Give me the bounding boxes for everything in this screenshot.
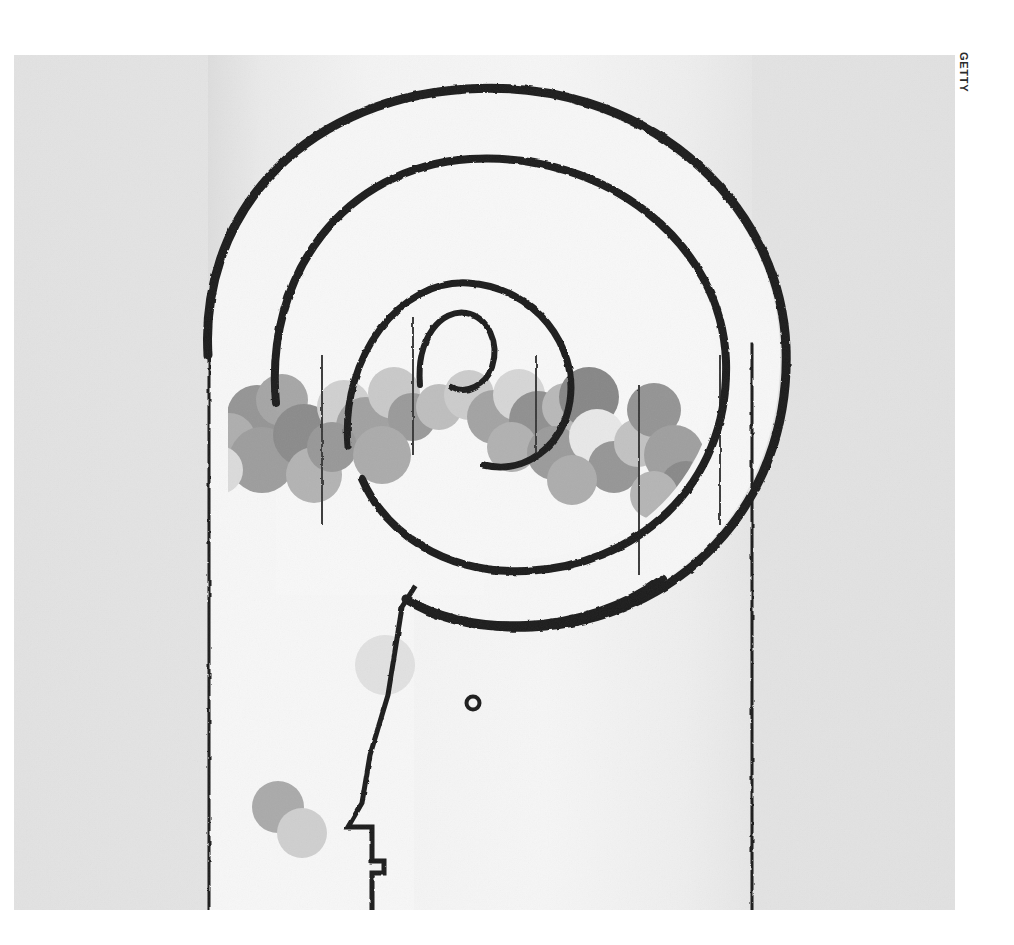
- page-root: GETTY: [0, 0, 1014, 945]
- image-credit: GETTY: [957, 52, 981, 142]
- grain-overlay: [14, 55, 955, 910]
- credit-label: GETTY: [958, 52, 970, 92]
- illustration-figure: [14, 55, 955, 910]
- illustration-svg: [14, 55, 955, 910]
